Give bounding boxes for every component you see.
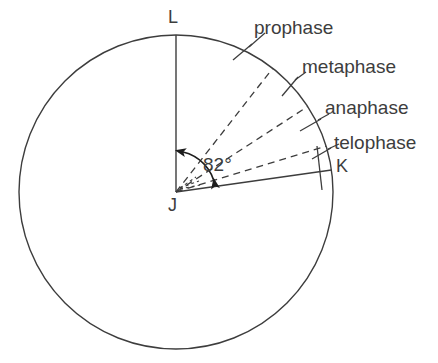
point-label-k: K bbox=[336, 157, 348, 175]
diagram-canvas: L J K 82° prophase metaphase anaphase te… bbox=[0, 0, 438, 363]
point-label-l: L bbox=[168, 8, 178, 26]
tick-k-radius bbox=[317, 146, 322, 190]
circle-diagram-svg bbox=[0, 0, 438, 363]
phase-label-metaphase: metaphase bbox=[302, 57, 396, 76]
phase-label-telophase: telophase bbox=[334, 133, 416, 152]
angle-measure-label: 82° bbox=[203, 155, 232, 174]
point-label-j: J bbox=[168, 196, 177, 214]
phase-label-prophase: prophase bbox=[254, 18, 333, 37]
phase-label-anaphase: anaphase bbox=[325, 98, 408, 117]
dashed-ray-anaphase bbox=[176, 107, 308, 193]
radius-jk bbox=[176, 170, 332, 192]
vertex-hatch-2 bbox=[180, 181, 199, 188]
